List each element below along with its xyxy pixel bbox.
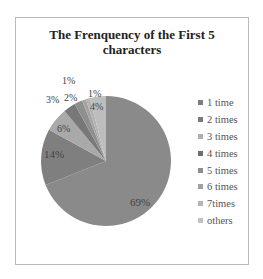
legend-swatch (198, 100, 203, 105)
legend-item: 6 times (198, 178, 238, 195)
label-1a: 1% (62, 75, 75, 86)
label-4: 4% (90, 101, 103, 112)
legend-item: 1 time (198, 94, 238, 111)
label-2: 2% (64, 92, 77, 103)
legend-item: 2 times (198, 111, 238, 128)
label-1b: 1% (88, 88, 101, 99)
label-6: 6% (57, 123, 70, 134)
legend-swatch (198, 117, 203, 122)
legend-item: 5 times (198, 162, 238, 179)
chart-legend: 1 time 2 times 3 times 4 times 5 times 6… (198, 94, 238, 229)
legend-item: 3 times (198, 128, 238, 145)
legend-item: 4 times (198, 145, 238, 162)
legend-label: 5 times (207, 165, 238, 176)
legend-swatch (198, 201, 203, 206)
legend-label: 7times (207, 198, 235, 209)
legend-label: 1 time (207, 97, 234, 108)
label-3: 3% (46, 94, 59, 105)
legend-label: 3 times (207, 131, 238, 142)
legend-label: others (207, 215, 233, 226)
legend-swatch (198, 168, 203, 173)
legend-swatch (198, 184, 203, 189)
legend-item: others (198, 212, 238, 229)
legend-swatch (198, 218, 203, 223)
legend-swatch (198, 134, 203, 139)
legend-item: 7times (198, 195, 238, 212)
label-14: 14% (44, 148, 64, 160)
legend-label: 4 times (207, 148, 238, 159)
legend-label: 2 times (207, 114, 238, 125)
legend-swatch (198, 151, 203, 156)
legend-label: 6 times (207, 181, 238, 192)
label-69: 69% (130, 196, 150, 208)
